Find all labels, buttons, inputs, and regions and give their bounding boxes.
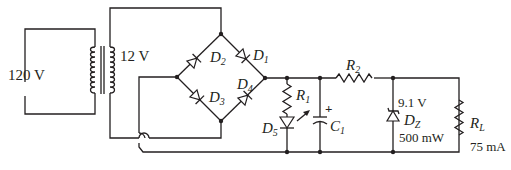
label-r1: R1 xyxy=(296,88,310,105)
transformer-icon xyxy=(91,46,115,94)
capacitor-polarity: + xyxy=(325,102,332,115)
zener-dz-icon xyxy=(387,78,399,152)
zener-power-label: 500 mW xyxy=(399,131,444,144)
bridge-rectifier xyxy=(175,32,267,123)
label-d5: D5 xyxy=(262,121,278,138)
label-c1: C1 xyxy=(330,119,345,136)
zener-voltage-label: 9.1 V xyxy=(398,96,427,109)
resistor-r2-icon xyxy=(336,74,372,82)
label-d4: D4 xyxy=(237,77,253,94)
resistor-r1-icon xyxy=(283,84,291,114)
source-voltage-label: 120 V xyxy=(8,68,45,83)
label-rl: RL xyxy=(470,116,485,133)
label-r2: R2 xyxy=(346,58,360,75)
load-current-label: 75 mA xyxy=(470,140,506,153)
label-d1: D1 xyxy=(253,48,269,65)
label-d2: D2 xyxy=(210,50,226,67)
secondary-voltage-label: 12 V xyxy=(120,49,149,64)
label-dz: DZ xyxy=(404,113,420,130)
label-d3: D3 xyxy=(209,90,225,107)
